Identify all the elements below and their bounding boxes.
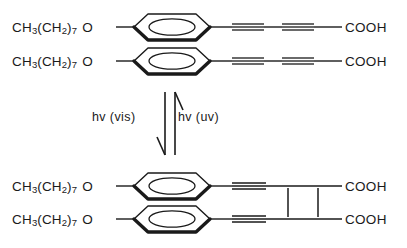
triple-bond	[282, 24, 314, 30]
monomer-row-1	[116, 14, 342, 40]
polymer-alkoxy-label-1: CH3(CH2)7 O	[12, 179, 93, 195]
benzene-ring	[134, 14, 210, 40]
reaction-scheme: CH3(CH2)7 O CH3(CH2)7 O COOH COOH hv (vi…	[0, 0, 407, 248]
polymer-row-1	[116, 173, 342, 199]
polymer-terminus-label-1: COOH	[345, 179, 387, 194]
monomer-terminus-label-1: COOH	[345, 20, 387, 35]
monomer-alkoxy-label-2: CH3(CH2)7 O	[12, 54, 93, 70]
monomer-structure	[116, 14, 342, 74]
monomer-row-2	[116, 48, 342, 74]
triple-bond	[282, 58, 314, 64]
benzene-ring	[134, 206, 210, 232]
forward-arrow-label: hv (vis)	[92, 110, 135, 124]
polymer-alkoxy-label-2: CH3(CH2)7 O	[12, 212, 93, 228]
triple-bond	[232, 58, 264, 64]
polymer-structure	[116, 173, 342, 232]
polymer-row-2	[116, 206, 342, 232]
reverse-arrow-label: hv (uv)	[178, 110, 219, 124]
crosslink-bonds	[288, 188, 318, 217]
triple-bond	[232, 216, 266, 222]
benzene-ring	[134, 48, 210, 74]
triple-bond	[232, 183, 266, 189]
scheme-vector-layer	[0, 0, 407, 248]
triple-bond	[232, 24, 264, 30]
benzene-ring	[134, 173, 210, 199]
polymer-terminus-label-2: COOH	[345, 212, 387, 227]
forward-arrow-down	[157, 92, 165, 155]
monomer-terminus-label-2: COOH	[345, 54, 387, 69]
monomer-alkoxy-label-1: CH3(CH2)7 O	[12, 20, 93, 36]
